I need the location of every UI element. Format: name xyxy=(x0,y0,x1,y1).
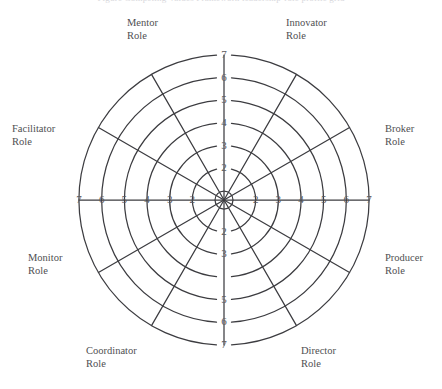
axis-label-mentor-line1: Mentor xyxy=(127,17,158,30)
tick-right-2: 2 xyxy=(249,194,263,205)
tick-top-2: 2 xyxy=(217,162,231,173)
tick-bottom-7: 7 xyxy=(217,339,231,350)
axis-label-mentor-line2: Role xyxy=(127,30,158,43)
axis-label-monitor-line1: Monitor xyxy=(28,252,62,265)
tick-left-4: 4 xyxy=(140,194,154,205)
tick-bottom-2: 2 xyxy=(217,226,231,237)
axis-label-broker-line1: Broker xyxy=(385,123,414,136)
tick-right-4: 4 xyxy=(294,194,308,205)
tick-right-5: 5 xyxy=(317,194,331,205)
tick-top-5: 5 xyxy=(217,94,231,105)
axis-label-broker: Broker Role xyxy=(385,123,414,148)
tick-left-7: 7 xyxy=(72,194,86,205)
axis-label-director-line2: Role xyxy=(301,358,336,371)
axis-label-director-line1: Director xyxy=(301,345,336,358)
axis-label-innovator: Innovator Role xyxy=(286,17,327,42)
tick-right-7: 7 xyxy=(362,194,376,205)
axis-label-mentor: Mentor Role xyxy=(127,17,158,42)
axis-label-broker-line2: Role xyxy=(385,136,414,149)
tick-bottom-5: 5 xyxy=(217,294,231,305)
axis-label-producer: Producer Role xyxy=(385,252,423,277)
axis-label-director: Director Role xyxy=(301,345,336,370)
axis-label-monitor-line2: Role xyxy=(28,265,62,278)
tick-left-5: 5 xyxy=(117,194,131,205)
tick-bottom-6: 6 xyxy=(217,316,231,327)
axis-label-producer-line1: Producer xyxy=(385,252,423,265)
axis-label-facilitator: Facilitator Role xyxy=(12,123,55,148)
tick-left-6: 6 xyxy=(95,194,109,205)
axis-label-innovator-line2: Role xyxy=(286,30,327,43)
axis-label-innovator-line1: Innovator xyxy=(286,17,327,30)
tick-top-6: 6 xyxy=(217,72,231,83)
axis-label-coordinator-line1: Coordinator xyxy=(86,345,137,358)
axis-label-facilitator-line2: Role xyxy=(12,136,55,149)
tick-top-3: 3 xyxy=(217,140,231,151)
tick-right-3: 3 xyxy=(271,194,285,205)
axis-label-facilitator-line1: Facilitator xyxy=(12,123,55,136)
axis-label-monitor: Monitor Role xyxy=(28,252,62,277)
tick-bottom-3: 3 xyxy=(217,248,231,259)
tick-top-7: 7 xyxy=(217,49,231,60)
axis-label-producer-line2: Role xyxy=(385,265,423,278)
tick-right-6: 6 xyxy=(339,194,353,205)
radar-chart: Figure Competing Values Framework leader… xyxy=(0,0,442,389)
tick-left-2: 2 xyxy=(185,194,199,205)
tick-top-4: 4 xyxy=(217,117,231,128)
tick-left-3: 3 xyxy=(163,194,177,205)
axis-label-coordinator-line2: Role xyxy=(86,358,137,371)
axis-label-coordinator: Coordinator Role xyxy=(86,345,137,370)
